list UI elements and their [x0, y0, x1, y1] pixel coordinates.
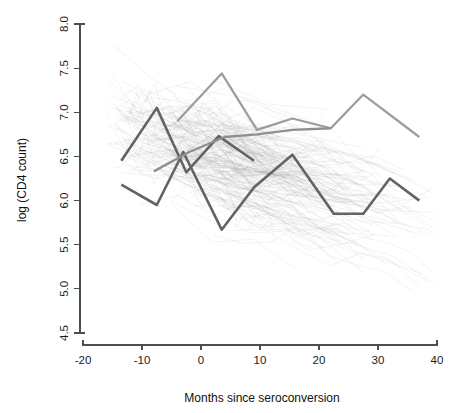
- x-tick-label: 0: [198, 354, 204, 366]
- x-tick-label: 30: [372, 354, 385, 366]
- y-tick-label: 4.5: [58, 325, 70, 341]
- y-axis-title: log (CD4 count): [15, 138, 29, 222]
- y-axis-ticks: 4.55.05.56.06.57.07.58.0: [58, 16, 80, 341]
- y-axis: 4.55.05.56.06.57.07.58.0: [58, 16, 85, 341]
- y-tick-label: 5.5: [58, 237, 70, 253]
- x-tick-label: 20: [313, 354, 326, 366]
- y-tick-label: 7.5: [58, 60, 70, 76]
- y-tick-label: 6.5: [58, 148, 70, 164]
- x-axis-ticks: -20-10010203040: [75, 345, 444, 366]
- chart-root: 4.55.05.56.06.57.07.58.0 -20-10010203040…: [0, 0, 476, 413]
- x-tick-label: -10: [134, 354, 151, 366]
- y-tick-label: 5.0: [58, 281, 70, 297]
- x-tick-label: 40: [431, 354, 444, 366]
- y-tick-label: 7.0: [58, 104, 70, 120]
- cd4-trajectory-chart: 4.55.05.56.06.57.07.58.0 -20-10010203040…: [0, 0, 476, 413]
- background-trajectory: [111, 42, 300, 120]
- y-tick-label: 6.0: [58, 193, 70, 209]
- background-trajectories: [107, 42, 434, 291]
- y-axis-line: [80, 24, 85, 333]
- y-tick-label: 8.0: [58, 16, 70, 32]
- x-tick-label: -20: [75, 354, 92, 366]
- background-trajectory: [208, 206, 422, 289]
- x-tick-label: 10: [254, 354, 267, 366]
- x-axis: -20-10010203040: [75, 340, 444, 366]
- x-axis-title: Months since seroconversion: [184, 391, 339, 405]
- x-axis-line: [83, 340, 437, 345]
